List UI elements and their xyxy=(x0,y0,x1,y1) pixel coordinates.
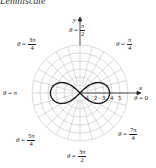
tick-5: 5 xyxy=(118,94,121,101)
angle-label-pi-over-2: θ = π2 xyxy=(69,23,85,37)
axes xyxy=(78,17,141,95)
tick-4: 4 xyxy=(110,94,113,101)
angle-label-7pi-over-4: θ = 7π4 xyxy=(118,127,137,141)
angle-label-pi-over-4: θ = π4 xyxy=(116,37,132,51)
angle-label-5pi-over-4: θ = 5π4 xyxy=(16,133,35,147)
tick-1: 1 xyxy=(86,94,89,101)
angle-label-pi: θ = π xyxy=(3,90,17,97)
angle-label-3pi-over-4: θ = 3π4 xyxy=(17,37,36,51)
tick-2: 2 xyxy=(94,94,97,101)
angle-label-0: θ = 0 xyxy=(134,95,148,102)
x-axis-label: x xyxy=(139,84,142,92)
angle-label-3pi-over-2: θ = 3π2 xyxy=(67,149,86,163)
tick-3: 3 xyxy=(102,94,105,101)
